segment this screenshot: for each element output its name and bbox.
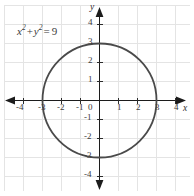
y-tick-label-6: -3 <box>84 151 92 160</box>
y-axis-arrow-up <box>96 7 104 17</box>
y-tick-label-0: 4 <box>88 18 93 27</box>
equation-value: 9 <box>51 25 59 37</box>
equation-annotation: x2+y2=9 <box>17 26 58 37</box>
x-tick-label-7: 4 <box>174 103 179 112</box>
equation-plus-operator: + <box>26 25 34 37</box>
circle-graph-figure: x2+y2=9 0 x y -4-3-2-11234 4321-1-2-3-4 <box>0 0 194 196</box>
y-axis-arrow-down <box>96 180 104 190</box>
y-tick-label-1: 3 <box>88 37 93 46</box>
x-axis-arrow-left <box>5 97 15 105</box>
x-tick-label-6: 3 <box>155 103 160 112</box>
x-tick-label-3: -1 <box>76 103 84 112</box>
y-axis-name-label: y <box>90 3 94 13</box>
x-tick-label-5: 2 <box>136 103 141 112</box>
x-axis-name-label: x <box>183 104 187 114</box>
y-tick-label-3: 1 <box>88 75 93 84</box>
equation-y-exponent: 2 <box>39 23 43 32</box>
x-tick-label-1: -3 <box>38 103 46 112</box>
x-tick-label-4: 1 <box>117 103 122 112</box>
y-tick-label-7: -4 <box>84 170 92 179</box>
equation-equals-operator: = <box>43 25 51 37</box>
x-tick-label-0: -4 <box>16 103 24 112</box>
y-tick-label-2: 2 <box>88 56 93 65</box>
y-tick-label-4: -1 <box>84 113 92 122</box>
y-tick-label-5: -2 <box>84 132 92 141</box>
x-tick-label-2: -2 <box>57 103 65 112</box>
origin-tick-label: 0 <box>88 103 93 112</box>
